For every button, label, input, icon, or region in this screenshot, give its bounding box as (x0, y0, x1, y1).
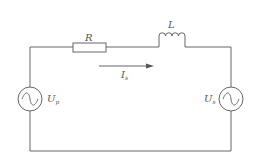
sine-wave-left-icon (22, 93, 38, 105)
resistor-label: R (84, 32, 93, 43)
inductor-symbol (159, 33, 185, 47)
sine-wave-right-icon (223, 93, 239, 105)
current-arrow-head-icon (146, 64, 154, 69)
resistor-symbol (73, 43, 106, 52)
source-left-label: Up (47, 93, 59, 106)
circuit-diagram: R L Is Up Us (0, 0, 256, 161)
source-right-label: Us (204, 93, 216, 105)
inductor-label: L (167, 19, 175, 30)
current-label: Is (120, 69, 128, 81)
